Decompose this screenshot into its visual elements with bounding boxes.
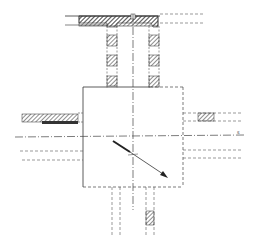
bottom-member <box>112 187 154 235</box>
axis-end-label: s <box>237 129 240 135</box>
right-column <box>149 26 159 88</box>
horizontal-centerline <box>15 135 245 137</box>
top-beam <box>65 14 205 27</box>
diagonal-arrow <box>113 141 168 178</box>
left-column <box>107 26 117 88</box>
technical-drawing: s <box>0 0 256 245</box>
